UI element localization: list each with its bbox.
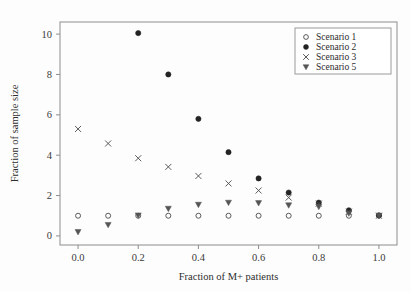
y-tick-label: 8 (47, 69, 52, 80)
x-tick-label: 0.6 (252, 252, 265, 263)
y-axis-title: Fraction of sample size (9, 84, 20, 182)
data-point (226, 200, 232, 205)
data-point (76, 213, 81, 218)
chart-figure: 0.00.20.40.60.81.00246810Fraction of M+ … (0, 0, 411, 292)
data-point (106, 213, 111, 218)
data-point (226, 150, 231, 155)
legend-marker-2 (304, 45, 309, 50)
data-point (316, 204, 322, 209)
y-tick-label: 4 (47, 150, 53, 161)
data-point (196, 213, 201, 218)
data-point (256, 201, 262, 206)
data-point (105, 222, 111, 227)
data-point (166, 213, 171, 218)
data-point (316, 213, 321, 218)
legend-label-2: Scenario 2 (316, 42, 357, 52)
x-tick-label: 0.4 (192, 252, 206, 263)
legend-label-3: Scenario 3 (316, 52, 357, 62)
data-point (165, 206, 171, 211)
x-tick-label: 0.8 (312, 252, 325, 263)
legend: Scenario 1Scenario 2Scenario 3Scenario 5 (295, 28, 391, 74)
data-point (256, 213, 261, 218)
data-point (196, 116, 201, 121)
scatter-plot: 0.00.20.40.60.81.00246810Fraction of M+ … (0, 0, 411, 292)
x-axis-title: Fraction of M+ patients (179, 271, 279, 282)
x-tick-label: 0.0 (71, 252, 84, 263)
x-tick-label: 0.2 (132, 252, 145, 263)
data-point (286, 190, 291, 195)
series-1 (76, 213, 382, 218)
data-point (136, 30, 141, 35)
legend-label-4: Scenario 5 (316, 62, 357, 72)
data-point (256, 176, 261, 181)
y-tick-label: 2 (47, 190, 52, 201)
y-tick-label: 10 (42, 29, 53, 40)
data-point (195, 202, 201, 207)
series-4 (75, 200, 382, 235)
data-point (286, 213, 291, 218)
data-point (166, 72, 171, 77)
legend-label-1: Scenario 1 (316, 32, 357, 42)
data-point (75, 229, 81, 234)
x-tick-label: 1.0 (372, 252, 385, 263)
y-tick-label: 0 (47, 230, 52, 241)
data-point (286, 203, 292, 208)
data-point (226, 213, 231, 218)
y-tick-label: 6 (47, 109, 52, 120)
